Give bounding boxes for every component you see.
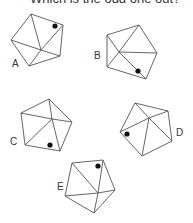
- pentagon-outline: [11, 14, 63, 66]
- option-a[interactable]: A: [11, 14, 63, 69]
- option-label: D: [176, 127, 183, 138]
- dot-marker: [47, 142, 52, 147]
- dot-marker: [135, 68, 140, 73]
- option-e[interactable]: E: [57, 160, 115, 213]
- option-label: A: [12, 58, 19, 69]
- pentagon-outline: [65, 160, 115, 213]
- option-c[interactable]: C: [10, 99, 72, 151]
- dot-marker: [124, 131, 129, 136]
- option-label: B: [94, 50, 101, 61]
- option-label: C: [10, 136, 17, 147]
- options-canvas: ABCDE: [0, 0, 193, 223]
- option-b[interactable]: B: [94, 25, 157, 79]
- dot-marker: [95, 163, 100, 168]
- pentagon-outline: [21, 99, 72, 151]
- pentagon-outline: [120, 103, 172, 156]
- option-label: E: [57, 181, 64, 192]
- dot-marker: [52, 23, 57, 28]
- option-d[interactable]: D: [120, 103, 183, 156]
